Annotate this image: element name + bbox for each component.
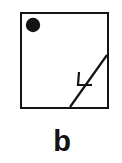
figure-background (0, 0, 122, 163)
figure-panel: b (0, 0, 122, 163)
figure-drawing (0, 0, 122, 163)
dot-marker-icon (26, 18, 40, 32)
